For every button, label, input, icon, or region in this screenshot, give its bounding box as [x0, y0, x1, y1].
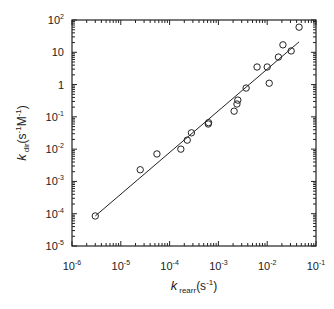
data-points [92, 24, 302, 219]
data-point [154, 151, 160, 157]
y-tick-label: 10-3 [46, 174, 65, 187]
x-axis-label: krearr(s-1) [171, 278, 218, 295]
data-point [266, 80, 272, 86]
data-point [280, 42, 286, 48]
data-point [296, 24, 302, 30]
y-tick-label: 102 [48, 13, 64, 26]
y-tick-label: 10 [52, 46, 64, 58]
data-point [188, 130, 194, 136]
x-tick-label: 10-3 [209, 259, 228, 272]
y-axis-label: kdir(s-1M-1) [14, 105, 31, 161]
x-tick-label: 10-4 [160, 259, 179, 272]
x-tick-label: 10-1 [307, 259, 326, 272]
y-tick-label: 10-5 [46, 239, 65, 252]
y-tick-label: 1 [58, 79, 64, 91]
data-point [231, 108, 237, 114]
y-tick-label: 10-4 [46, 207, 65, 220]
data-point [254, 64, 260, 70]
data-point [178, 146, 184, 152]
y-tick-label: 10-1 [46, 110, 65, 123]
data-point [235, 97, 241, 103]
x-tick-label: 10-6 [63, 259, 82, 272]
scatter-chart: 10-610-510-410-310-210-110210110-110-210… [0, 0, 334, 309]
data-point [137, 167, 143, 173]
x-tick-label: 10-2 [258, 259, 277, 272]
y-tick-label: 10-2 [46, 142, 65, 155]
x-tick-label: 10-5 [112, 259, 131, 272]
fit-line [95, 42, 299, 216]
